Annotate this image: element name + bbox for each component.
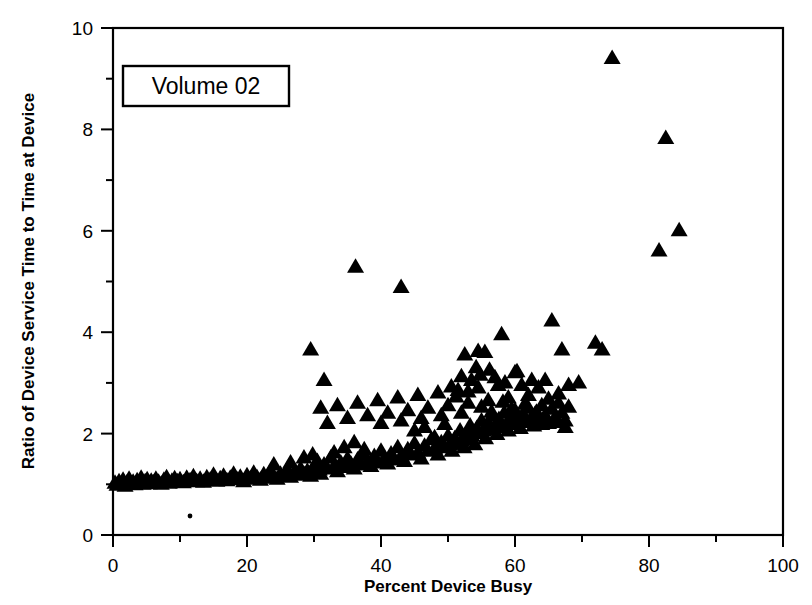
y-tick-label: 0 [82,525,93,546]
x-tick-label: 60 [504,555,525,576]
series-label-text: Volume 02 [152,73,261,99]
chart-figure: 0246810 020406080100 Percent Device Busy… [0,0,812,605]
x-tick-label: 0 [108,555,119,576]
x-tick-label: 80 [638,555,659,576]
x-axis-title: Percent Device Busy [364,577,533,596]
y-axis-title: Ratio of Device Service Time to Time at … [19,93,38,469]
x-tick-label: 100 [767,555,799,576]
y-tick-label: 6 [82,221,93,242]
scatter-plot: 0246810 020406080100 Percent Device Busy… [0,0,812,605]
y-tick-label: 8 [82,119,93,140]
y-tick-label: 4 [82,322,93,343]
x-tick-label: 40 [370,555,391,576]
speck-dot [188,514,193,519]
x-tick-label: 20 [236,555,257,576]
scan-artifact-speck [188,514,193,519]
y-tick-label: 10 [72,18,93,39]
y-tick-label: 2 [82,424,93,445]
